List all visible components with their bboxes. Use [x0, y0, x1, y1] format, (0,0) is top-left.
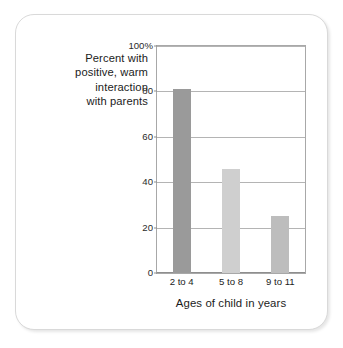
x-tick-label-0: 2 to 4 [170, 277, 194, 287]
x-tick-label-1: 5 to 8 [219, 277, 243, 287]
figure-card: Percent with positive, warm interaction … [15, 14, 328, 330]
y-tick-label-100: 100% [128, 41, 153, 51]
x-axis-title: Ages of child in years [156, 297, 306, 309]
y-tick-label-40: 40 [142, 177, 153, 187]
y-tick-label-20: 20 [142, 223, 153, 233]
y-tick-label-80: 80 [142, 87, 153, 97]
bar-2-to-4 [173, 89, 191, 273]
y-tick-mark-60 [154, 136, 157, 137]
y-tick-mark-80 [154, 91, 157, 92]
y-axis-caption-line-4: with parents [30, 94, 148, 108]
y-tick-mark-0 [154, 273, 157, 274]
y-axis-caption-line-3: interaction [30, 80, 148, 94]
y-tick-label-60: 60 [142, 132, 153, 142]
gridline-100 [157, 46, 305, 47]
bar-5-to-8 [222, 169, 240, 273]
y-tick-label-0: 0 [148, 268, 153, 278]
y-tick-mark-100 [154, 46, 157, 47]
y-axis-caption: Percent with positive, warm interaction … [30, 51, 148, 108]
plot-area: 020406080100% 2 to 45 to 89 to 11 [156, 45, 306, 274]
y-tick-mark-20 [154, 227, 157, 228]
y-axis-caption-line-1: Percent with [30, 51, 148, 65]
bar-9-to-11 [271, 216, 289, 273]
y-axis-caption-line-2: positive, warm [30, 65, 148, 79]
x-tick-label-2: 9 to 11 [266, 277, 295, 287]
y-tick-mark-40 [154, 182, 157, 183]
